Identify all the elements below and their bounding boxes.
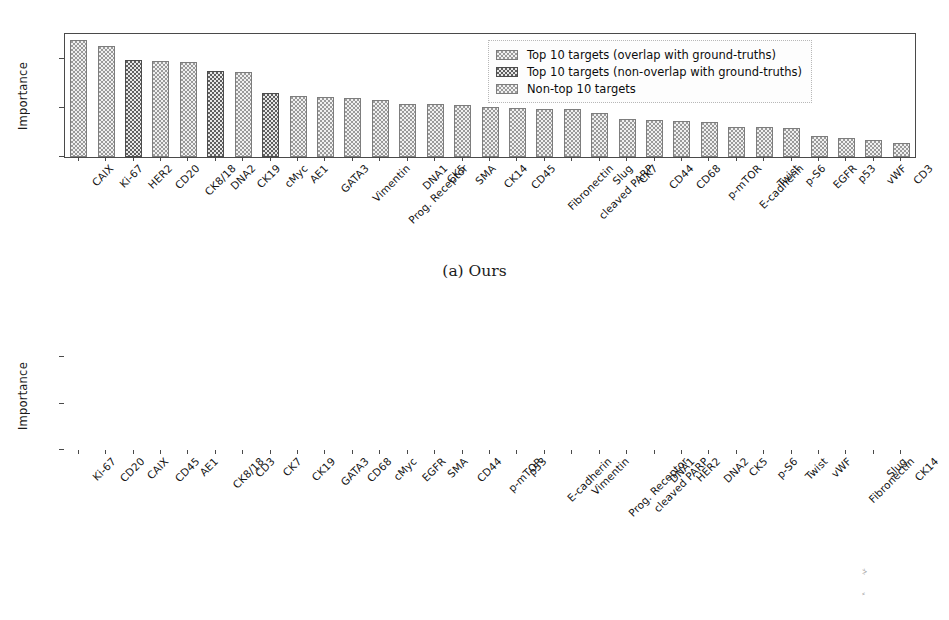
x-axis-tick bbox=[818, 157, 819, 161]
x-axis-tick-label: SMA bbox=[445, 455, 470, 480]
x-axis-tick-label: SMA bbox=[472, 162, 497, 187]
y-axis-tick bbox=[59, 58, 64, 59]
x-axis-tick bbox=[78, 450, 79, 454]
y-axis-label-b: Importance bbox=[14, 336, 32, 456]
x-axis-tick-label: CK14 bbox=[912, 455, 940, 483]
bar bbox=[427, 104, 444, 157]
scan-speck: ⸗ bbox=[862, 588, 865, 598]
x-axis-tick-label: p-S6 bbox=[802, 162, 828, 188]
bar bbox=[865, 140, 882, 157]
x-axis-tick-label: p53 bbox=[855, 162, 878, 185]
x-axis-tick bbox=[791, 157, 792, 161]
x-axis-tick bbox=[434, 450, 435, 454]
x-axis-tick-label: CK19 bbox=[254, 162, 282, 190]
x-axis-tick bbox=[270, 450, 271, 454]
x-axis-tick-label: cMyc bbox=[391, 455, 419, 483]
x-axis-tick bbox=[215, 157, 216, 161]
bar bbox=[783, 128, 800, 157]
x-axis-tick bbox=[681, 450, 682, 454]
legend-label: Non-top 10 targets bbox=[527, 82, 636, 96]
bar bbox=[262, 93, 279, 157]
x-axis-tick-label: CK5 bbox=[746, 455, 769, 478]
x-axis-tick-label: HER2 bbox=[145, 162, 174, 191]
bar bbox=[591, 113, 608, 157]
bar bbox=[399, 104, 416, 157]
x-axis-tick-label: EGFR bbox=[419, 455, 448, 484]
bar bbox=[564, 109, 581, 157]
bar bbox=[290, 96, 307, 158]
x-axis-tick bbox=[845, 157, 846, 161]
x-axis-tick bbox=[489, 157, 490, 161]
bar bbox=[372, 100, 389, 157]
x-axis-tick-label: CD3 bbox=[911, 162, 935, 186]
x-axis-tick bbox=[571, 450, 572, 454]
x-axis-tick-label: p-mTOR bbox=[725, 162, 764, 201]
bar bbox=[673, 121, 690, 157]
bar bbox=[838, 138, 855, 157]
x-axis-tick bbox=[407, 157, 408, 161]
x-axis-tick-label: CD45 bbox=[529, 162, 558, 191]
x-axis-tick bbox=[270, 157, 271, 161]
x-axis-tick bbox=[352, 157, 353, 161]
x-axis-tick bbox=[599, 157, 600, 161]
x-axis-tick-label: GATA3 bbox=[339, 162, 372, 195]
legend-ours: Top 10 targets (overlap with ground-trut… bbox=[488, 40, 812, 103]
x-axis-tick-label: Ki-67 bbox=[90, 455, 118, 483]
bar bbox=[180, 62, 197, 157]
x-axis-tick bbox=[407, 450, 408, 454]
x-axis-tick bbox=[160, 157, 161, 161]
bar bbox=[207, 71, 224, 157]
x-axis-tick bbox=[297, 157, 298, 161]
bar bbox=[125, 60, 142, 157]
x-axis-tick bbox=[242, 157, 243, 161]
x-axis-tick-label: CD68 bbox=[364, 455, 393, 484]
x-axis-tick bbox=[489, 450, 490, 454]
x-axis-tick bbox=[242, 450, 243, 454]
legend-swatch-nontop-icon bbox=[496, 84, 518, 94]
y-axis-tick bbox=[59, 156, 64, 157]
x-axis-tick bbox=[900, 450, 901, 454]
figure-panel-ours: Importance CAIXKi-67HER2CD20CK8/18DNA2CK… bbox=[0, 0, 949, 300]
x-axis-tick bbox=[736, 157, 737, 161]
legend-label: Top 10 targets (overlap with ground-trut… bbox=[527, 48, 776, 62]
x-axis-tick bbox=[297, 450, 298, 454]
bar bbox=[454, 105, 471, 157]
x-axis-tick bbox=[544, 157, 545, 161]
x-axis-tick bbox=[736, 450, 737, 454]
bar bbox=[235, 72, 252, 157]
x-axis-tick bbox=[187, 157, 188, 161]
x-axis-tick bbox=[708, 157, 709, 161]
x-axis-tick bbox=[434, 157, 435, 161]
x-axis-tick bbox=[462, 157, 463, 161]
x-axis-tick bbox=[516, 157, 517, 161]
legend-item: Non-top 10 targets bbox=[496, 80, 802, 97]
x-axis-tick-label: vWF bbox=[884, 162, 909, 187]
x-axis-tick bbox=[133, 157, 134, 161]
x-axis-tick bbox=[133, 450, 134, 454]
x-axis-tick-label: Ki-67 bbox=[117, 162, 145, 190]
x-axis-tick bbox=[626, 157, 627, 161]
x-axis-tick-label: p-S6 bbox=[774, 455, 800, 481]
x-axis-tick-label: CAIX bbox=[89, 162, 115, 188]
bar bbox=[70, 40, 87, 157]
x-axis-tick-label: CK14 bbox=[501, 162, 529, 190]
legend-item: Top 10 targets (overlap with ground-trut… bbox=[496, 46, 802, 63]
x-axis-tick bbox=[818, 450, 819, 454]
bar bbox=[701, 122, 718, 157]
bar bbox=[646, 120, 663, 157]
legend-swatch-overlap-icon bbox=[496, 50, 518, 60]
x-axis-tick-label: GATA3 bbox=[339, 455, 372, 488]
bar bbox=[98, 46, 115, 157]
x-axis-tick-label: CD44 bbox=[474, 455, 503, 484]
x-axis-tick bbox=[462, 450, 463, 454]
y-axis-tick bbox=[59, 449, 64, 450]
bar bbox=[619, 119, 636, 157]
y-axis-tick bbox=[59, 356, 64, 357]
y-axis-tick bbox=[59, 107, 64, 108]
x-axis-tick bbox=[324, 157, 325, 161]
bar bbox=[152, 61, 169, 157]
figure-panel-ground-truth: Importance Ki-67CD20CAIXCD45AE1CK8/18CD3… bbox=[0, 300, 949, 600]
x-axis-tick bbox=[654, 157, 655, 161]
x-axis-tick-label: AE1 bbox=[197, 455, 220, 478]
legend-swatch-nonoverlap-icon bbox=[496, 67, 518, 77]
